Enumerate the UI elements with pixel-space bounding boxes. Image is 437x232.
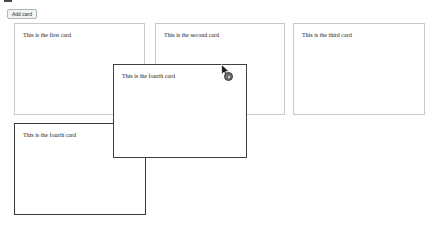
app-root: Add card This is the first card This is … — [0, 0, 437, 232]
card-label: This is the second card — [164, 32, 219, 39]
card-label: This is the first card — [23, 32, 71, 39]
card[interactable]: This is the third card — [293, 23, 425, 115]
card-label: This is the third card — [302, 32, 352, 39]
card-board: This is the first card This is the secon… — [0, 0, 437, 232]
card-label: This is the fourth card — [23, 132, 76, 139]
dragging-card[interactable]: This is the fourth card — [113, 64, 247, 158]
dragging-card-label: This is the fourth card — [122, 73, 175, 80]
